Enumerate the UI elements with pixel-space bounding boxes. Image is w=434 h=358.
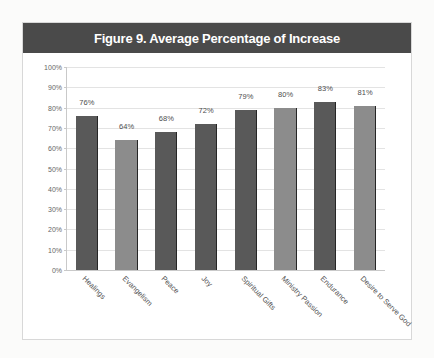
y-axis-tick-label: 90% — [48, 84, 62, 91]
gridline — [67, 270, 385, 271]
y-axis-tick-label: 80% — [48, 104, 62, 111]
chart-plot-wrapper: 100%90%80%70%60%50%40%30%20%10%0% 76%Hea… — [23, 53, 411, 341]
bar[interactable] — [76, 116, 98, 270]
y-axis-tick-label: 30% — [48, 206, 62, 213]
x-axis-category-label: Healings — [81, 274, 108, 301]
bar[interactable] — [195, 124, 217, 270]
bar-value-label: 68% — [159, 114, 174, 123]
y-axis-tick-label: 70% — [48, 124, 62, 131]
y-axis-tick-mark — [64, 270, 67, 271]
bar-value-label: 76% — [79, 98, 94, 107]
figure-card: Figure 9. Average Percentage of Increase… — [22, 22, 412, 340]
bar[interactable] — [115, 140, 137, 270]
bar-value-label: 64% — [119, 122, 134, 131]
bar-value-label: 80% — [278, 90, 293, 99]
bar[interactable] — [274, 108, 296, 270]
bar-slot: 76%Healings — [67, 67, 107, 270]
bar[interactable] — [314, 102, 336, 270]
y-axis-tick-label: 50% — [48, 165, 62, 172]
x-axis-category-label: Ministry Passion — [279, 274, 324, 319]
x-axis-category-label: Endurance — [319, 274, 351, 306]
bar-slot: 72%Joy — [186, 67, 226, 270]
bar[interactable] — [354, 106, 376, 270]
x-axis-category-label: Evangelism — [120, 274, 154, 308]
bar-slot: 64%Evangelism — [107, 67, 147, 270]
bar-slot: 81%Desire to Serve God — [345, 67, 385, 270]
y-axis-tick-label: 0% — [52, 267, 62, 274]
figure-title-bar: Figure 9. Average Percentage of Increase — [23, 23, 411, 53]
bar-slot: 83%Endurance — [306, 67, 346, 270]
bar-value-label: 72% — [199, 106, 214, 115]
x-axis-category-label: Spiritual Gifts — [240, 274, 278, 312]
bar[interactable] — [155, 132, 177, 270]
y-axis-tick-label: 100% — [44, 64, 62, 71]
x-axis-category-label: Peace — [160, 274, 181, 295]
x-axis-category-label: Joy — [200, 274, 215, 289]
figure-title: Figure 9. Average Percentage of Increase — [94, 31, 340, 46]
y-axis-tick-label: 20% — [48, 226, 62, 233]
bar-slot: 80%Ministry Passion — [266, 67, 306, 270]
bar-value-label: 81% — [358, 88, 373, 97]
bar[interactable] — [235, 110, 257, 270]
bar-slot: 79%Spiritual Gifts — [226, 67, 266, 270]
chart-plot-area: 100%90%80%70%60%50%40%30%20%10%0% 76%Hea… — [67, 67, 385, 270]
y-axis-tick-label: 60% — [48, 145, 62, 152]
y-axis-tick-label: 10% — [48, 246, 62, 253]
bar-value-label: 83% — [318, 84, 333, 93]
y-axis-tick-label: 40% — [48, 185, 62, 192]
bar-slot: 68%Peace — [147, 67, 187, 270]
bar-value-label: 79% — [238, 92, 253, 101]
x-axis-category-label: Desire to Serve God — [359, 274, 413, 328]
